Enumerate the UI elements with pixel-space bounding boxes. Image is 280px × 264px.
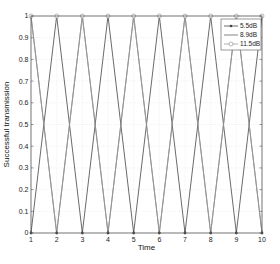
x-tick-label: 3	[80, 236, 84, 243]
x-tick-label: 2	[55, 236, 59, 243]
y-tick-label: 0	[25, 229, 29, 236]
x-tick-label: 7	[183, 236, 187, 243]
y-tick-label: 0.2	[19, 186, 29, 193]
y-tick-label: 0.3	[19, 164, 29, 171]
x-axis-label: Time	[138, 243, 156, 252]
x-tick-label: 1	[29, 236, 33, 243]
y-tick-label: 0.8	[19, 56, 29, 63]
line-chart: 00.10.20.30.40.50.60.70.80.91 1234567891…	[0, 0, 280, 264]
x-tick-label: 10	[258, 236, 266, 243]
y-tick-label: 0.1	[19, 208, 29, 215]
x-tick-label: 5	[132, 236, 136, 243]
dot-marker-icon	[230, 25, 233, 28]
x-axis-ticks: 12345678910	[29, 231, 266, 243]
x-tick-label: 8	[209, 236, 213, 243]
svg-text:8.9dB: 8.9dB	[240, 31, 257, 38]
svg-text:11.5dB: 11.5dB	[240, 40, 260, 47]
y-axis-label: Successful transmission	[2, 82, 11, 168]
y-tick-label: 1	[25, 12, 29, 19]
legend: 5.5dB 8.9dB 11.5dB	[221, 19, 261, 50]
y-tick-label: 0.7	[19, 78, 29, 85]
svg-text:5.5dB: 5.5dB	[240, 22, 257, 29]
x-tick-label: 4	[106, 236, 110, 243]
x-tick-label: 6	[157, 236, 161, 243]
y-tick-label: 0.6	[19, 99, 29, 106]
y-tick-label: 0.4	[19, 143, 29, 150]
y-tick-label: 0.5	[19, 121, 29, 128]
circle-marker-icon	[229, 42, 233, 46]
x-tick-label: 9	[234, 236, 238, 243]
y-tick-label: 0.9	[19, 34, 29, 41]
